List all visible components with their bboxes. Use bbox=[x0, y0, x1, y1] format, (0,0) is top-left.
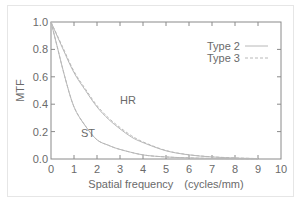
plot-axes: 0123456789100.00.20.40.60.81.0 bbox=[33, 16, 287, 175]
x-tick-label: 3 bbox=[117, 163, 123, 175]
legend: Type 2Type 3 bbox=[207, 40, 268, 64]
x-tick-label: 1 bbox=[71, 163, 77, 175]
curve-annotation-hr: HR bbox=[120, 94, 136, 106]
curve-annotation-st: ST bbox=[81, 127, 95, 139]
x-tick-label: 7 bbox=[209, 163, 215, 175]
x-tick-label: 6 bbox=[186, 163, 192, 175]
x-tick-label: 9 bbox=[255, 163, 261, 175]
mtf-chart: 0123456789100.00.20.40.60.81.0 Spatial f… bbox=[0, 0, 308, 205]
x-tick-label: 10 bbox=[275, 163, 287, 175]
y-tick-label: 1.0 bbox=[33, 16, 48, 28]
y-axis-label: MTF bbox=[14, 79, 26, 102]
x-axis-label: Spatial frequency (cycles/mm) bbox=[88, 178, 243, 190]
y-tick-label: 0.4 bbox=[33, 98, 48, 110]
x-tick-label: 2 bbox=[94, 163, 100, 175]
x-tick-label: 5 bbox=[163, 163, 169, 175]
y-tick-label: 0.6 bbox=[33, 71, 48, 83]
x-tick-label: 0 bbox=[48, 163, 54, 175]
legend-label: Type 2 bbox=[207, 40, 240, 52]
y-tick-label: 0.0 bbox=[33, 153, 48, 165]
x-tick-label: 8 bbox=[232, 163, 238, 175]
y-tick-label: 0.8 bbox=[33, 43, 48, 55]
legend-label: Type 3 bbox=[207, 52, 240, 64]
x-tick-label: 4 bbox=[140, 163, 146, 175]
y-tick-label: 0.2 bbox=[33, 126, 48, 138]
